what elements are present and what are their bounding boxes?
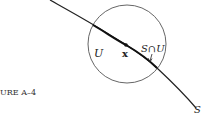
- figure-caption: URE A–4: [0, 88, 36, 97]
- label-u: U: [94, 47, 104, 60]
- label-x: x: [122, 48, 129, 59]
- label-intersection: S∩U: [141, 43, 165, 54]
- label-s: S: [194, 104, 201, 114]
- figure-a4-diagram: U x S∩U S URE A–4: [0, 0, 211, 114]
- point-x-dot: [124, 43, 128, 47]
